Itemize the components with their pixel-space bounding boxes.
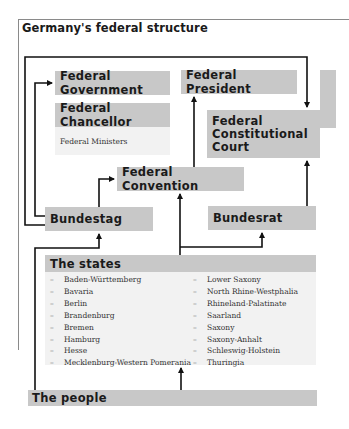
bundestag-to-court-arrow <box>25 57 307 225</box>
people-to-bundestag-arrow <box>35 234 99 390</box>
bundestag-to-government-arrow <box>35 83 52 216</box>
bundestag-to-convention-arrow <box>99 179 114 207</box>
states-to-bundesrat-arrow <box>180 233 262 247</box>
